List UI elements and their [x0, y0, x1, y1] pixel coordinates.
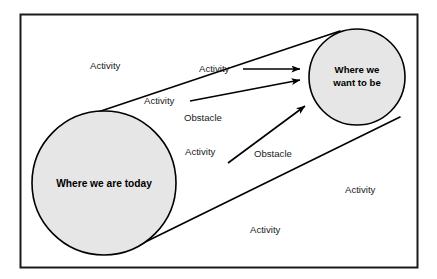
label-activity-4: Activity	[185, 146, 216, 157]
label-activity-2: Activity	[199, 63, 230, 74]
label-activity-3: Activity	[144, 95, 175, 106]
node-future-state-label-line2: want to be	[332, 77, 380, 88]
node-current-state-label: Where we are today	[56, 178, 152, 189]
label-activity-6: Activity	[250, 224, 281, 235]
label-obstacle-1: Obstacle	[184, 112, 222, 123]
label-activity-1: Activity	[90, 60, 121, 71]
gap-analysis-diagram: Where we are today Where we want to be A…	[0, 0, 437, 279]
diagram-canvas: Where we are today Where we want to be A…	[0, 0, 437, 279]
node-future-state-label-line1: Where we	[335, 64, 380, 75]
label-obstacle-2: Obstacle	[254, 148, 292, 159]
label-activity-5: Activity	[345, 184, 376, 195]
